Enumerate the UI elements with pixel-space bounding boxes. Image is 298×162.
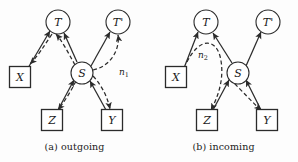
noise-label-n1: n1 xyxy=(119,67,129,79)
node-z-label: Z xyxy=(47,114,56,127)
node-tprime-label: T' xyxy=(263,16,273,29)
caption-outgoing: (a) outgoing xyxy=(0,141,149,152)
panel-outgoing: T T' S X Z Y n1 (a) outgoing xyxy=(0,0,149,162)
caption-incoming: (b) incoming xyxy=(149,141,298,152)
node-s-label: S xyxy=(234,67,242,80)
node-x-label: X xyxy=(15,71,25,84)
edge-y-to-s xyxy=(246,80,261,110)
edge-y-to-s xyxy=(90,81,106,110)
noise-label-n2: n2 xyxy=(198,50,208,62)
edge-s-to-y-dashed xyxy=(93,76,110,109)
edge-s-to-t xyxy=(213,33,232,63)
edge-x-to-t xyxy=(184,32,198,68)
edge-z-to-s xyxy=(213,80,229,110)
edge-s-to-t-dashed xyxy=(56,34,75,65)
edge-z-to-s xyxy=(58,80,74,110)
edge-s-to-z-dashed xyxy=(58,81,76,110)
edge-s-to-tprime xyxy=(91,32,110,66)
node-s-label: S xyxy=(78,67,86,80)
node-x-label: X xyxy=(171,71,181,84)
edge-s-to-tprime xyxy=(246,32,261,66)
panel-incoming: T T' S X Z Y n2 (b) incoming xyxy=(149,0,298,162)
node-tprime-label: T' xyxy=(113,16,123,29)
node-z-label: Z xyxy=(202,114,211,127)
diagram-incoming: T T' S X Z Y n2 xyxy=(149,0,298,140)
figure-container: T T' S X Z Y n1 (a) outgoing xyxy=(0,0,298,162)
diagram-outgoing: T T' S X Z Y n1 xyxy=(0,0,149,140)
